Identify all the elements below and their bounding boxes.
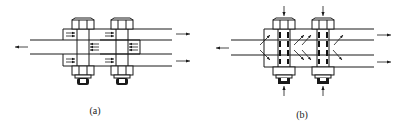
bolt-1 bbox=[72, 18, 94, 85]
shear-arrows-cover bbox=[66, 33, 114, 62]
bolt-2-b bbox=[312, 6, 334, 96]
middle-plate-b bbox=[231, 40, 340, 55]
panel-b: (b) bbox=[216, 6, 391, 121]
panel-a: (a) bbox=[15, 18, 190, 117]
caption-a: (a) bbox=[89, 105, 100, 117]
shear-arrows-middle bbox=[90, 44, 138, 50]
figure-canvas: (a) bbox=[0, 0, 402, 129]
caption-b: (b) bbox=[296, 109, 308, 121]
load-arrows-a bbox=[15, 34, 190, 61]
oblique-force-lines bbox=[260, 35, 343, 60]
bolt-1-b bbox=[273, 6, 295, 96]
cover-plate-bottom bbox=[63, 54, 172, 66]
cover-plate-top bbox=[63, 29, 172, 40]
bolt-2 bbox=[111, 18, 133, 85]
middle-plate bbox=[30, 40, 140, 54]
load-arrows-b bbox=[216, 35, 391, 62]
